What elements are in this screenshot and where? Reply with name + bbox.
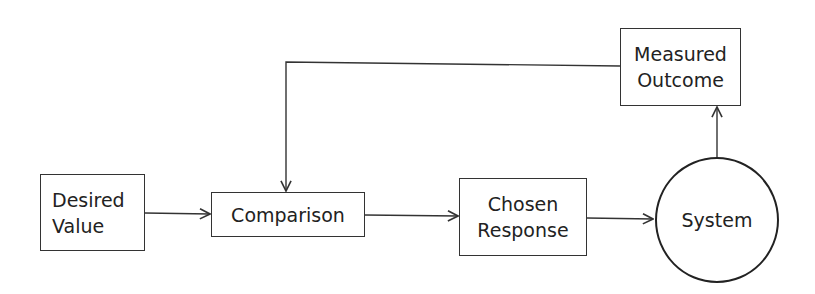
system-circle: System — [655, 157, 779, 283]
desired-value-box: Desired Value — [40, 174, 145, 251]
arrow-comparison-to-chosen — [365, 215, 458, 216]
comparison-label: Comparison — [231, 202, 345, 228]
arrow-desired-to-comparison — [145, 213, 210, 214]
desired-value-line2: Value — [52, 213, 104, 239]
chosen-response-line2: Response — [477, 217, 568, 243]
desired-value-line1: Desired — [52, 187, 125, 213]
arrow-feedback-measured-to-comparison — [286, 62, 620, 191]
measured-outcome-box: Measured Outcome — [620, 28, 741, 106]
chosen-response-line1: Chosen — [488, 191, 559, 217]
arrow-chosen-to-system — [587, 218, 653, 219]
system-label: System — [682, 207, 753, 233]
measured-outcome-line2: Outcome — [637, 67, 724, 93]
chosen-response-box: Chosen Response — [459, 178, 587, 256]
measured-outcome-line1: Measured — [634, 41, 727, 67]
comparison-box: Comparison — [211, 192, 365, 237]
